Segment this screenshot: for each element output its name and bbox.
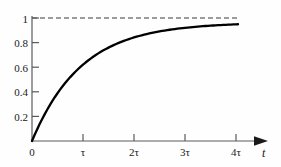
exponential-rise-chart: 1 0.8 0.6 0.4 0.2 0 τ 2τ 3τ 4τ t bbox=[0, 0, 281, 167]
x-tick-label-tau: τ bbox=[73, 147, 93, 158]
y-tick-label-1: 1 bbox=[2, 14, 28, 25]
x-axis-ticks bbox=[83, 134, 236, 141]
x-tick-label-2tau: 2τ bbox=[123, 147, 145, 158]
y-tick-label-0-8: 0.8 bbox=[2, 38, 28, 49]
y-tick-label-0-2: 0.2 bbox=[2, 112, 28, 123]
rise-curve-visible bbox=[32, 24, 238, 141]
plot-area bbox=[0, 0, 281, 167]
x-axis-label: t bbox=[262, 147, 265, 159]
y-tick-label-0-6: 0.6 bbox=[2, 63, 28, 74]
y-tick-label-0-4: 0.4 bbox=[2, 87, 28, 98]
origin-label: 0 bbox=[24, 147, 40, 158]
x-axis-arrowhead bbox=[254, 136, 268, 146]
y-axis-ticks bbox=[32, 18, 39, 116]
x-tick-label-4tau: 4τ bbox=[225, 147, 247, 158]
x-tick-label-3tau: 3τ bbox=[174, 147, 196, 158]
